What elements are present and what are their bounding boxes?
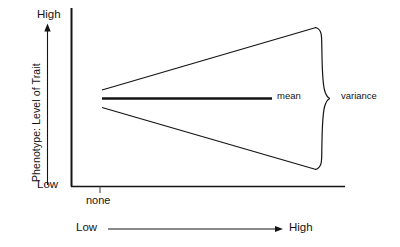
y-axis-high-label: High	[37, 9, 61, 21]
mean-annotation-label: mean	[277, 91, 301, 101]
x-axis-low-label: Low	[76, 222, 97, 234]
x-axis-none-label: none	[86, 195, 110, 206]
lower-bound-line	[102, 108, 316, 170]
y-axis-arrow	[44, 24, 50, 186]
diagram-canvas: Phenotype: Level of Trait High Low none …	[0, 0, 400, 247]
x-axis-high-label: High	[289, 222, 313, 234]
variance-brace	[316, 28, 330, 170]
y-axis-low-label: Low	[37, 179, 58, 191]
y-axis-title: Phenotype: Level of Trait	[31, 63, 42, 182]
upper-bound-line	[102, 28, 316, 91]
diagram-drawing	[0, 0, 400, 247]
variance-annotation-label: variance	[341, 91, 377, 101]
x-scale-arrow	[108, 226, 283, 232]
